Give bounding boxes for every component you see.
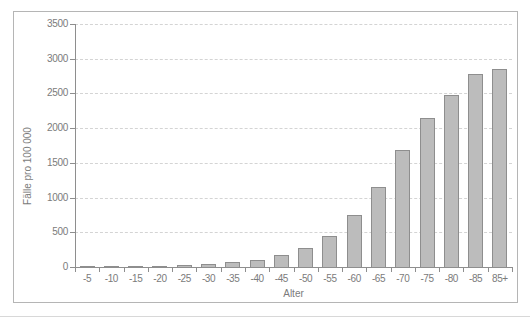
bar--60 — [347, 215, 362, 267]
x-tick-17 — [488, 268, 489, 272]
bar-slot--35 — [221, 24, 245, 267]
x-cat-label--70: -70 — [391, 273, 415, 284]
bar-slot--60 — [342, 24, 366, 267]
x-cat-label--65: -65 — [366, 273, 390, 284]
bar--30 — [201, 264, 216, 267]
bar--45 — [274, 255, 289, 267]
bar-slot--55 — [318, 24, 342, 267]
bar--25 — [177, 265, 192, 267]
x-tick-18 — [512, 268, 513, 272]
bar-slot-85+ — [488, 24, 512, 267]
x-cat-label--35: -35 — [221, 273, 245, 284]
x-tick-8 — [269, 268, 270, 272]
x-tick-11 — [342, 268, 343, 272]
x-cat-label--5: -5 — [75, 273, 99, 284]
x-tick-12 — [366, 268, 367, 272]
page-bottom-rule — [0, 316, 530, 317]
bar-slot--30 — [196, 24, 220, 267]
bar-slot--10 — [99, 24, 123, 267]
x-cat-label--55: -55 — [318, 273, 342, 284]
x-tick-7 — [245, 268, 246, 272]
y-tick-label-0: 0 — [36, 262, 68, 272]
x-cat-label--45: -45 — [269, 273, 293, 284]
bar-slot--40 — [245, 24, 269, 267]
y-tick-label-2500: 2500 — [36, 88, 68, 98]
x-axis-title: Alter — [75, 288, 512, 299]
bar--80 — [444, 95, 459, 267]
x-cat-label--50: -50 — [294, 273, 318, 284]
x-cat-label-85+: 85+ — [488, 273, 512, 284]
x-cat-label--15: -15 — [124, 273, 148, 284]
x-cat-label--85: -85 — [464, 273, 488, 284]
bar--5 — [80, 266, 95, 267]
y-axis-title: Fälle pro 100 000 — [22, 127, 33, 205]
x-cat-label--10: -10 — [99, 273, 123, 284]
y-tick-label-3000: 3000 — [36, 54, 68, 64]
y-tick-label-3500: 3500 — [36, 19, 68, 29]
bar--40 — [250, 260, 265, 267]
x-tick-14 — [415, 268, 416, 272]
bar--75 — [420, 118, 435, 267]
x-cat-label--75: -75 — [415, 273, 439, 284]
bars-layer — [75, 24, 512, 267]
x-cat-label--60: -60 — [342, 273, 366, 284]
bar-slot--65 — [366, 24, 390, 267]
bar-slot--80 — [439, 24, 463, 267]
x-cat-label--40: -40 — [245, 273, 269, 284]
bar--35 — [225, 262, 240, 267]
y-tick-label-2000: 2000 — [36, 123, 68, 133]
bar-slot--70 — [391, 24, 415, 267]
bar-slot--5 — [75, 24, 99, 267]
x-tick-4 — [172, 268, 173, 272]
x-cat-label--80: -80 — [439, 273, 463, 284]
y-tick-label-1500: 1500 — [36, 158, 68, 168]
bar-slot--85 — [464, 24, 488, 267]
bar-85+ — [492, 69, 507, 267]
bar--10 — [104, 266, 119, 267]
x-cat-label--25: -25 — [172, 273, 196, 284]
x-tick-16 — [463, 268, 464, 272]
x-tick-9 — [294, 268, 295, 272]
x-category-labels: -5-10-15-20-25-30-35-40-45-50-55-60-65-7… — [75, 273, 512, 284]
bar--65 — [371, 187, 386, 267]
bar-slot--45 — [269, 24, 293, 267]
x-tick-15 — [439, 268, 440, 272]
chart-screenshot: 0500100015002000250030003500 -5-10-15-20… — [0, 0, 530, 321]
x-tick-1 — [99, 268, 100, 272]
bar-slot--25 — [172, 24, 196, 267]
bar-slot--50 — [294, 24, 318, 267]
x-tick-10 — [318, 268, 319, 272]
bar-slot--15 — [124, 24, 148, 267]
x-cat-label--20: -20 — [148, 273, 172, 284]
x-tick-5 — [196, 268, 197, 272]
x-tick-3 — [148, 268, 149, 272]
bar-slot--20 — [148, 24, 172, 267]
bar--55 — [322, 236, 337, 267]
x-tick-13 — [391, 268, 392, 272]
x-cat-label--30: -30 — [196, 273, 220, 284]
x-tick-0 — [75, 268, 76, 272]
y-tick-label-500: 500 — [36, 227, 68, 237]
bar-slot--75 — [415, 24, 439, 267]
bar--70 — [395, 150, 410, 267]
x-tick-2 — [124, 268, 125, 272]
bar--20 — [152, 266, 167, 267]
y-tick-label-1000: 1000 — [36, 193, 68, 203]
bar--85 — [468, 74, 483, 267]
x-tick-6 — [221, 268, 222, 272]
bar--50 — [298, 248, 313, 267]
bar--15 — [128, 266, 143, 267]
